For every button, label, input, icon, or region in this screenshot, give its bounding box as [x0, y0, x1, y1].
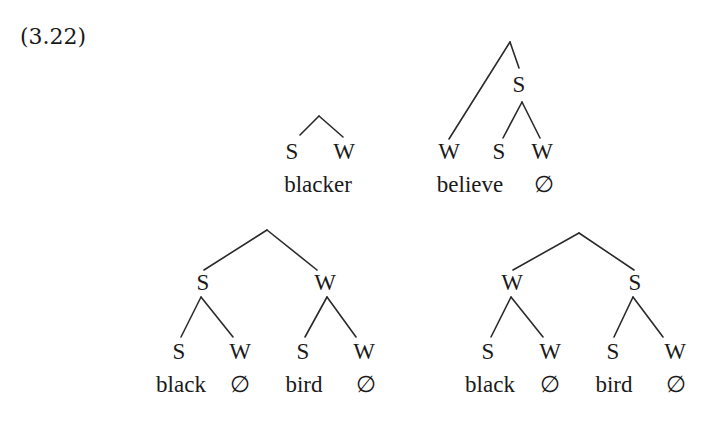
tree-believe-node-inner: S: [513, 73, 526, 96]
tree3-node-rr: W: [353, 340, 375, 363]
tree4-word-bird: bird: [595, 373, 632, 396]
tree3-node-lr: W: [229, 340, 251, 363]
tree4-null-1: ∅: [540, 373, 560, 396]
tree-believe-branches: [449, 42, 540, 139]
tree4-node-lr: W: [539, 340, 561, 363]
tree4-node-right: S: [629, 271, 642, 294]
tree4-node-left: W: [501, 271, 523, 294]
tree-believe-node-left: W: [438, 140, 460, 163]
tree3-node-left: S: [197, 271, 210, 294]
tree4-node-rr: W: [664, 340, 686, 363]
tree-believe-node-inner-left: S: [493, 140, 506, 163]
tree3-null-1: ∅: [230, 373, 250, 396]
tree-believe-node-inner-right: W: [531, 140, 553, 163]
tree3-null-2: ∅: [356, 373, 376, 396]
tree-blacker-word: blacker: [284, 173, 352, 196]
tree3-word-black: black: [156, 373, 206, 396]
tree3-node-rl: S: [297, 340, 310, 363]
tree3-node-right: W: [314, 271, 336, 294]
tree-blacker-node-left: S: [286, 140, 299, 163]
tree3-word-bird: bird: [285, 373, 322, 396]
tree3-node-ll: S: [173, 340, 186, 363]
tree-believe-word: believe: [437, 173, 503, 196]
tree4-node-ll: S: [482, 340, 495, 363]
tree4-null-2: ∅: [666, 373, 686, 396]
tree-blacker-node-right: W: [333, 140, 355, 163]
tree-believe-null: ∅: [534, 173, 554, 196]
metrical-tree-diagram: (3.22): [0, 0, 709, 421]
tree-blacker-branches: [300, 116, 343, 137]
tree4-node-rl: S: [607, 340, 620, 363]
tree4-word-black: black: [465, 373, 515, 396]
